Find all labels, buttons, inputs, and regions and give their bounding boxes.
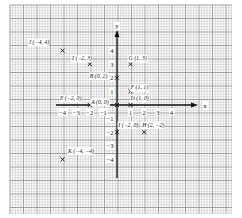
point-label: G (1, 3) <box>129 55 147 62</box>
point-label: K (−4, −4) <box>67 148 94 155</box>
coordinate-plane-diagram: xy−4−3−2−112344321−1−2−3−4 J (−4, 4)I (−… <box>0 0 242 218</box>
y-tick-label: −1 <box>107 115 114 122</box>
y-tick-label: −2 <box>107 129 114 136</box>
grid-lines <box>10 5 232 214</box>
point-label: E (−2, 0) <box>59 95 82 102</box>
point-label: D (1, 0) <box>130 95 149 102</box>
point-label: I (−2, 3) <box>71 55 92 62</box>
y-tick-label: 2 <box>110 74 113 81</box>
point-label: I (−2, 0) <box>117 122 138 129</box>
x-tick-label: −3 <box>73 109 80 116</box>
y-axis-label: y <box>115 22 119 30</box>
point-label: B (0, 2) <box>90 73 108 80</box>
y-tick-label: 3 <box>110 61 113 68</box>
graph-paper: xy−4−3−2−112344321−1−2−3−4 J (−4, 4)I (−… <box>0 0 242 218</box>
y-tick-label: 1 <box>110 88 113 95</box>
y-tick-label: −3 <box>107 142 114 149</box>
x-tick-label: −2 <box>86 109 93 116</box>
x-tick-label: 1 <box>129 109 132 116</box>
x-tick-label: −4 <box>59 109 67 116</box>
y-tick-label: −4 <box>107 156 115 163</box>
x-tick-label: 3 <box>156 109 159 116</box>
point-label: J (−4, 4) <box>29 39 50 46</box>
point-label: H (2, −2) <box>141 122 164 129</box>
x-tick-label: 2 <box>143 109 146 116</box>
point-label: F (1, 1) <box>130 84 149 91</box>
x-axis-label: x <box>203 102 207 110</box>
point-label: A (0, 0) <box>90 99 109 106</box>
